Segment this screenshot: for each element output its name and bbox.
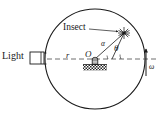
physics-diagram-figure: Light Insect r O α θ ω [0, 0, 165, 117]
ground-hatching [83, 65, 107, 71]
insect-marker [118, 27, 130, 39]
alpha-angle-arc [107, 56, 108, 60]
insect-leader-line [89, 29, 118, 32]
theta-angle-label: θ [114, 44, 118, 53]
insect-label: Insect [63, 23, 86, 33]
light-source-box [30, 52, 44, 64]
center-label: O [85, 50, 92, 59]
theta-angle-arc [120, 55, 121, 60]
omega-label: ω [149, 63, 154, 71]
radius-line-to-insect [95, 34, 123, 59]
light-label: Light [2, 51, 24, 61]
diagram-canvas [0, 0, 165, 117]
radius-label: r [66, 51, 69, 60]
alpha-angle-label: α [101, 40, 105, 48]
